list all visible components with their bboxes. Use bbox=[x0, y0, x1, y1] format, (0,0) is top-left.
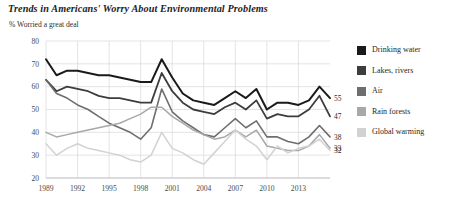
y-axis-tick-label: 50 bbox=[31, 105, 39, 114]
y-axis-tick-label: 40 bbox=[31, 128, 39, 137]
series-line-drinking-water bbox=[46, 59, 330, 109]
x-axis-tick-label: 2013 bbox=[291, 184, 306, 193]
legend-item-label: Lakes, rivers bbox=[372, 67, 413, 75]
x-axis-ticks: 198919921995199820012004200720102013 bbox=[38, 184, 306, 193]
legend-item-label: Drinking water bbox=[372, 46, 421, 54]
end-label-global-warming: 32 bbox=[334, 146, 342, 155]
y-axis-tick-label: 30 bbox=[31, 151, 39, 160]
y-axis-tick-label: 20 bbox=[31, 174, 39, 183]
legend-item-label: Rain forests bbox=[372, 108, 410, 116]
x-axis-tick-label: 1998 bbox=[133, 184, 148, 193]
series-lines bbox=[46, 59, 330, 164]
legend-swatch-icon bbox=[357, 87, 366, 96]
y-axis-tick-label: 80 bbox=[31, 37, 39, 46]
legend-item[interactable]: Rain forests bbox=[357, 102, 463, 123]
legend-item[interactable]: Lakes, rivers bbox=[357, 61, 463, 82]
legend-item-label: Air bbox=[372, 87, 383, 95]
legend-item-label: Global warming bbox=[372, 128, 424, 136]
legend-item[interactable]: Drinking water bbox=[357, 40, 463, 61]
y-axis-tick-label: 60 bbox=[31, 82, 39, 91]
end-label-air: 38 bbox=[334, 133, 342, 142]
y-axis-tick-label: 70 bbox=[31, 60, 39, 69]
legend-swatch-icon bbox=[357, 46, 366, 55]
x-axis-tick-label: 2007 bbox=[228, 184, 243, 193]
series-line-air bbox=[46, 80, 330, 144]
x-axis-tick-label: 1995 bbox=[102, 184, 117, 193]
series-end-labels: 5547383332 bbox=[334, 94, 342, 156]
environmental-worry-chart: Trends in Americans' Worry About Environ… bbox=[0, 0, 464, 208]
x-axis-tick-label: 1989 bbox=[38, 184, 53, 193]
legend-swatch-icon bbox=[357, 66, 366, 75]
end-label-lakes-rivers: 47 bbox=[334, 112, 342, 121]
x-axis-tick-label: 2004 bbox=[196, 184, 211, 193]
y-axis-ticks: 20304050607080 bbox=[31, 37, 39, 183]
legend: Drinking waterLakes, riversAirRain fores… bbox=[357, 40, 463, 143]
x-axis-tick-label: 2001 bbox=[165, 184, 180, 193]
series-line-rain-forests bbox=[46, 107, 330, 150]
series-line-global-warming bbox=[46, 130, 330, 164]
x-axis-tick-label: 1992 bbox=[70, 184, 85, 193]
end-label-drinking-water: 55 bbox=[334, 94, 342, 103]
x-axis-tick-label: 2010 bbox=[259, 184, 274, 193]
legend-swatch-icon bbox=[357, 107, 366, 116]
legend-item[interactable]: Global warming bbox=[357, 122, 463, 143]
legend-swatch-icon bbox=[357, 128, 366, 137]
legend-item[interactable]: Air bbox=[357, 81, 463, 102]
